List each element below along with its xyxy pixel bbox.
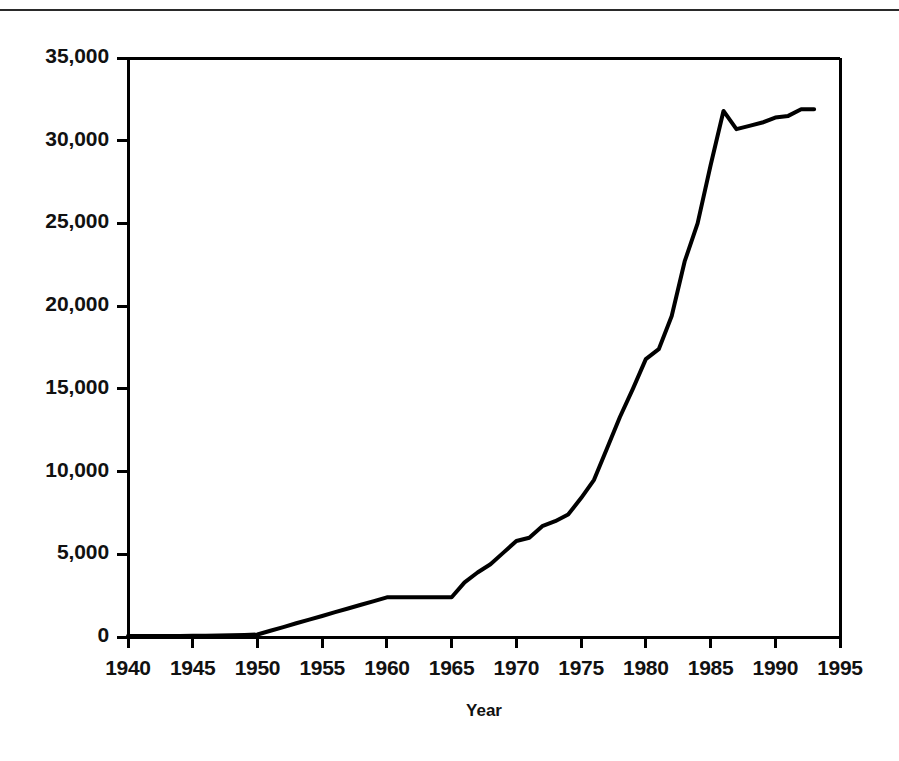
line-chart: 05,00010,00015,00020,00025,00030,00035,0… [0,0,899,761]
chart-page: 05,00010,00015,00020,00025,00030,00035,0… [0,0,899,761]
y-axis-tick-label: 35,000 [45,44,109,68]
plot-frame [128,58,840,637]
data-series-line [128,109,814,636]
x-axis-title: Year [83,701,885,721]
y-axis-tick-label: 0 [97,623,109,647]
x-axis-tick-label: 1995 [795,656,885,680]
y-axis-tick-label: 5,000 [57,540,109,564]
chart-canvas [0,0,899,761]
series-line-path [128,109,814,636]
y-axis-tick-label: 25,000 [45,209,109,233]
y-axis-tick-label: 30,000 [45,127,109,151]
axis-tick-marks [117,58,840,648]
y-axis-tick-label: 15,000 [45,375,109,399]
y-axis-tick-label: 10,000 [45,458,109,482]
y-axis-tick-label: 20,000 [45,292,109,316]
